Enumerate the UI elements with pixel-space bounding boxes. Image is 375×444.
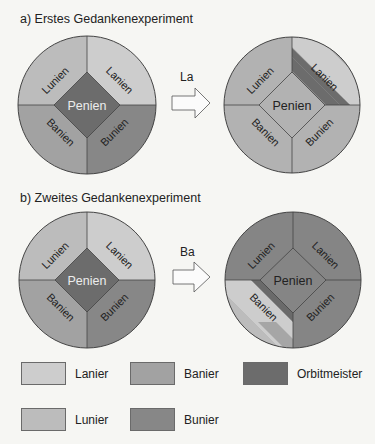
legend-item-banier: Banier xyxy=(130,362,219,385)
swatch-orbitmeister xyxy=(243,362,288,385)
legend-item-lunier: Lunier xyxy=(21,408,108,431)
circle-a-after: Lunien Lanien Banien Bunien Penien xyxy=(224,37,360,173)
legend-item-orbitmeister: Orbitmeister xyxy=(243,362,362,385)
label-penien: Penien xyxy=(68,99,107,113)
swatch-lunier xyxy=(21,408,66,431)
circle-b-after: Lunien Lanien Banien Bunien Penien xyxy=(225,212,361,348)
arrow-right-icon xyxy=(173,262,210,292)
arrow-right-icon xyxy=(172,88,210,118)
legend-label: Banier xyxy=(184,367,219,381)
legend-item-bunier: Bunier xyxy=(130,408,219,431)
arrow-label-ba: Ba xyxy=(180,245,195,259)
legend-label: Lunier xyxy=(75,413,108,427)
legend-item-lanier: Lanier xyxy=(21,362,108,385)
legend-label: Bunier xyxy=(184,413,219,427)
swatch-bunier xyxy=(130,408,175,431)
circle-a-before: Lunien Lanien Banien Bunien Penien xyxy=(18,36,156,174)
swatch-banier xyxy=(130,362,175,385)
label-penien: Penien xyxy=(68,274,107,288)
legend-label: Orbitmeister xyxy=(297,367,362,381)
circle-b-before: Lunien Lanien Banien Bunien Penien xyxy=(19,212,155,348)
swatch-lanier xyxy=(21,362,66,385)
arrow-label-la: La xyxy=(180,70,193,84)
legend-label: Lanier xyxy=(75,367,108,381)
label-penien: Penien xyxy=(273,99,312,113)
label-penien: Penien xyxy=(274,274,313,288)
